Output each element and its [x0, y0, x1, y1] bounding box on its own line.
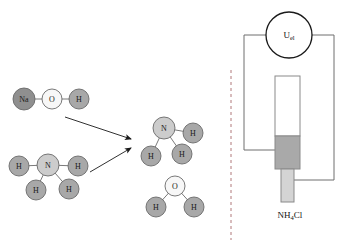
atom-h: H [9, 156, 29, 176]
atom-group: NHHH [141, 117, 203, 166]
atom-h: H [68, 156, 88, 176]
atom-n: N [153, 117, 175, 139]
reaction-arrow-upper [65, 117, 131, 139]
molecule-ammonium-ion: NHHHH [9, 154, 88, 200]
lower-rod [281, 169, 294, 202]
atom-h: H [146, 197, 166, 217]
atom-symbol: H [33, 186, 39, 195]
atom-h: H [69, 89, 89, 109]
electrode-block [275, 136, 300, 169]
atom-h: H [172, 144, 192, 164]
atom-o: O [165, 176, 185, 196]
reaction-arrow-lower [90, 148, 131, 172]
atom-symbol: H [75, 162, 81, 171]
atom-symbol: H [148, 152, 154, 161]
atom-symbol: Na [19, 95, 29, 104]
atom-h: H [26, 180, 46, 200]
glass-tube [275, 76, 300, 136]
atom-o: O [42, 89, 62, 109]
atom-symbol: H [190, 129, 196, 138]
molecule-ammonia: NHHH [141, 117, 203, 166]
atom-h: H [59, 179, 79, 199]
reaction-scheme: NaOH NHHHH NHHH OHH [9, 88, 204, 217]
atom-symbol: N [45, 161, 51, 170]
atom-h: H [183, 123, 203, 143]
atom-symbol: H [66, 185, 72, 194]
atom-symbol: O [49, 95, 55, 104]
circuit-wire-left [244, 35, 277, 150]
sample-label: NH4Cl [278, 210, 303, 221]
atom-group: NaOH [13, 88, 89, 110]
atom-n: N [37, 154, 59, 176]
atom-symbol: N [161, 124, 167, 133]
atom-symbol: H [191, 203, 197, 212]
atom-na: Na [13, 88, 35, 110]
atom-symbol: O [172, 182, 178, 191]
molecule-sodium-hydroxide: NaOH [13, 88, 89, 110]
atom-group: OHH [146, 176, 204, 217]
atom-symbol: H [153, 203, 159, 212]
atom-h: H [184, 197, 204, 217]
atom-group: NHHHH [9, 154, 88, 200]
electrolysis-apparatus: Uel NH4Cl [244, 12, 334, 221]
atom-symbol: H [179, 150, 185, 159]
figure-root: NaOH NHHHH NHHH OHH [0, 0, 346, 246]
atom-symbol: H [76, 95, 82, 104]
atom-symbol: H [16, 162, 22, 171]
molecule-water: OHH [146, 176, 204, 217]
figure-canvas: NaOH NHHHH NHHH OHH [0, 0, 346, 246]
atom-h: H [141, 146, 161, 166]
